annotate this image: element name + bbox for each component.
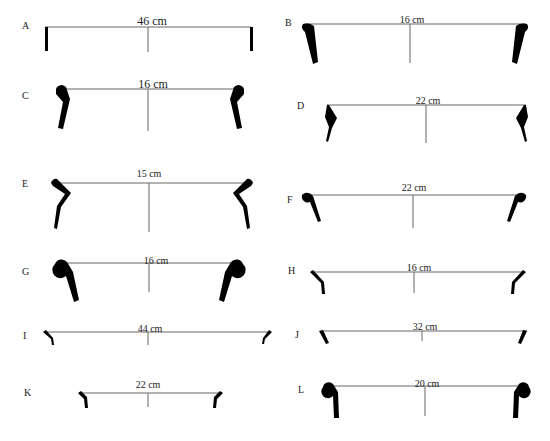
profile-g-right	[219, 259, 246, 302]
diameter-label-f: 22 cm	[402, 183, 427, 193]
profile-f-right	[507, 193, 526, 222]
profile-l-right	[513, 382, 531, 418]
profile-d-left	[325, 105, 337, 142]
profile-label-f: F	[287, 195, 293, 205]
profiles-drawing	[0, 0, 550, 441]
diameter-lines	[45, 24, 527, 416]
diameter-label-c: 16 cm	[138, 78, 168, 90]
profile-label-d: D	[297, 101, 304, 111]
profile-label-b: B	[285, 18, 292, 28]
profile-h-left	[310, 270, 325, 294]
profile-e-left	[51, 179, 71, 229]
profile-label-e: E	[22, 179, 28, 189]
profile-d-right	[516, 105, 528, 142]
profile-k-left	[78, 391, 88, 408]
profile-label-g: G	[22, 267, 29, 277]
profile-l-left	[321, 382, 339, 418]
profile-j-left	[319, 330, 329, 344]
profile-a-right	[250, 27, 253, 51]
profile-j-right	[518, 330, 527, 344]
profile-h-right	[511, 270, 526, 294]
diameter-label-e: 15 cm	[137, 169, 162, 179]
diameter-label-g: 16 cm	[144, 256, 169, 266]
profile-label-k: K	[24, 388, 31, 398]
diameter-label-d: 22 cm	[416, 96, 441, 106]
profile-label-i: I	[23, 331, 26, 341]
diameter-label-a: 46 cm	[137, 15, 167, 27]
diameter-label-k: 22 cm	[136, 380, 161, 390]
profile-a-left	[45, 27, 48, 51]
diameter-label-h: 16 cm	[407, 263, 432, 273]
profile-c-right	[230, 85, 244, 129]
profile-k-right	[213, 391, 223, 408]
profile-c-left	[56, 85, 70, 129]
profile-label-j: J	[295, 330, 299, 340]
diameter-label-l: 20 cm	[415, 379, 440, 389]
profile-label-l: L	[298, 385, 304, 395]
rim-profiles	[43, 23, 531, 418]
profile-f-left	[302, 193, 321, 222]
profile-g-left	[52, 259, 79, 302]
diameter-label-j: 32 cm	[413, 322, 438, 332]
profile-label-a: A	[22, 21, 29, 31]
profile-e-right	[233, 179, 253, 229]
profile-b-right	[512, 23, 528, 64]
diameter-label-i: 44 cm	[138, 324, 163, 334]
profile-label-h: H	[288, 266, 295, 276]
diameter-label-b: 16 cm	[400, 15, 425, 25]
profile-b-left	[302, 23, 318, 64]
profile-label-c: C	[22, 91, 29, 101]
